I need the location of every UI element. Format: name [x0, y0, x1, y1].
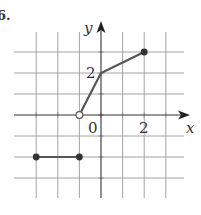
axes	[14, 21, 190, 198]
closed-endpoint	[141, 49, 148, 56]
x-tick-label-0: 0	[88, 119, 98, 137]
graph-segment-2	[79, 52, 144, 115]
x-axis-label: x	[186, 119, 195, 137]
function-graph: y x 0 2 2	[0, 0, 201, 215]
closed-endpoint	[76, 154, 83, 161]
closed-endpoint	[33, 154, 40, 161]
y-axis-label: y	[83, 19, 93, 37]
y-tick-label-2: 2	[86, 64, 96, 82]
open-endpoint	[76, 112, 83, 119]
x-tick-label-2: 2	[139, 119, 149, 137]
